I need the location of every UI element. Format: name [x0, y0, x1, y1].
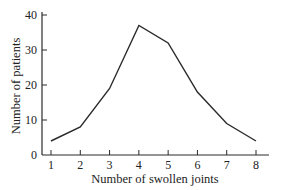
x-tick-label: 6 — [194, 158, 200, 172]
x-axis: 12345678 — [42, 150, 269, 172]
y-axis-label: Number of patients — [9, 38, 23, 135]
x-tick-label: 2 — [77, 158, 83, 172]
y-tick-label: 20 — [25, 78, 37, 92]
y-tick-label: 10 — [25, 113, 37, 127]
y-tick-label: 30 — [25, 43, 37, 57]
y-tick-label: 0 — [31, 148, 37, 162]
x-axis-label: Number of swollen joints — [91, 172, 219, 186]
x-tick-label: 5 — [165, 158, 171, 172]
x-tick-label: 4 — [136, 158, 142, 172]
y-tick-label: 40 — [25, 8, 37, 22]
x-tick-label: 8 — [253, 158, 259, 172]
line-chart: 010203040 12345678 Number of swollen joi… — [0, 0, 281, 190]
x-tick-label: 7 — [224, 158, 230, 172]
x-tick-label: 3 — [107, 158, 113, 172]
x-tick-label: 1 — [48, 158, 54, 172]
data-line — [51, 26, 256, 142]
y-axis: 010203040 — [25, 8, 47, 162]
